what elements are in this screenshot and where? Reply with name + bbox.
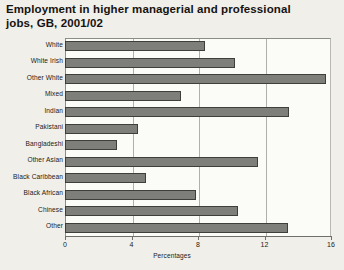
bar bbox=[65, 107, 289, 117]
bar bbox=[65, 206, 238, 216]
category-label: White bbox=[1, 41, 63, 49]
bar bbox=[65, 190, 196, 200]
x-tick-0 bbox=[65, 236, 66, 240]
bar-row bbox=[65, 220, 331, 237]
bar bbox=[65, 173, 146, 183]
bar-row bbox=[65, 154, 331, 171]
bar bbox=[65, 140, 117, 150]
x-tick-16 bbox=[331, 236, 332, 240]
x-tick-4 bbox=[132, 236, 133, 240]
x-tick-label: 0 bbox=[63, 241, 67, 248]
category-label: Other White bbox=[1, 74, 63, 82]
x-tick-label: 16 bbox=[327, 241, 335, 248]
x-tick-label: 12 bbox=[261, 241, 269, 248]
category-axis-labels: WhiteWhite IrishOther WhiteMixedIndianPa… bbox=[0, 36, 63, 238]
bars-layer bbox=[65, 38, 331, 236]
bar bbox=[65, 58, 235, 68]
category-label: Black African bbox=[1, 189, 63, 197]
bar-row bbox=[65, 170, 331, 187]
category-label: Other bbox=[1, 222, 63, 230]
bar bbox=[65, 223, 288, 233]
category-label: Chinese bbox=[1, 206, 63, 214]
category-label: White Irish bbox=[1, 57, 63, 65]
bar-row bbox=[65, 203, 331, 220]
bar-row bbox=[65, 88, 331, 105]
category-label: Other Asian bbox=[1, 156, 63, 164]
bar-row bbox=[65, 104, 331, 121]
x-tick-label: 4 bbox=[130, 241, 134, 248]
category-label: Pakistani bbox=[1, 123, 63, 131]
bar bbox=[65, 157, 258, 167]
x-tick-12 bbox=[265, 236, 266, 240]
bar-chart: Employment in higher managerial and prof… bbox=[0, 0, 344, 270]
category-label: Mixed bbox=[1, 90, 63, 98]
bar bbox=[65, 74, 326, 84]
bar bbox=[65, 124, 138, 134]
x-tick-8 bbox=[198, 236, 199, 240]
bar-row bbox=[65, 137, 331, 154]
bar-row bbox=[65, 71, 331, 88]
x-axis-title: Percentages bbox=[0, 252, 344, 259]
category-label: Indian bbox=[1, 107, 63, 115]
chart-title: Employment in higher managerial and prof… bbox=[6, 2, 326, 30]
category-label: Bangladeshi bbox=[1, 140, 63, 148]
x-tick-label: 8 bbox=[196, 241, 200, 248]
bar-row bbox=[65, 55, 331, 72]
bar-row bbox=[65, 187, 331, 204]
category-label: Black Caribbean bbox=[1, 173, 63, 181]
bar bbox=[65, 91, 181, 101]
bar-row bbox=[65, 38, 331, 55]
bar bbox=[65, 41, 205, 51]
bar-row bbox=[65, 121, 331, 138]
